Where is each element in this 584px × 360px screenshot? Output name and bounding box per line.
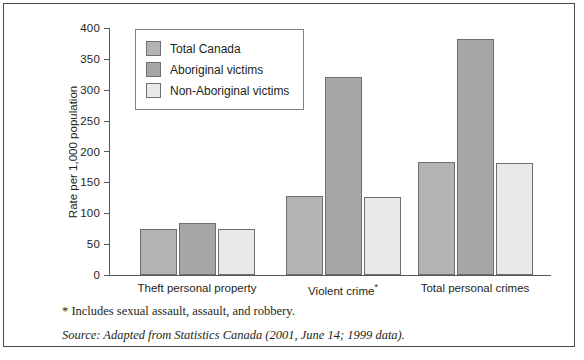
footnote-marker: *	[374, 282, 378, 292]
bar[interactable]	[325, 77, 362, 275]
chart-legend: Total CanadaAboriginal victimsNon-Aborig…	[135, 29, 304, 110]
y-tick-label: 300	[80, 84, 100, 96]
bar-group-bars	[409, 28, 541, 275]
bar[interactable]	[286, 196, 323, 275]
y-tick-100: 100	[80, 207, 109, 219]
x-axis-category-label: Violent crime*	[308, 282, 378, 297]
bar-group: Total personal crimes	[409, 28, 541, 275]
x-axis-line	[109, 275, 551, 276]
y-tick-150: 150	[80, 176, 109, 188]
y-tick-mark	[104, 121, 109, 122]
y-tick-mark	[104, 275, 109, 276]
bar[interactable]	[457, 39, 494, 275]
y-tick-label: 400	[80, 22, 100, 34]
y-tick-mark	[104, 151, 109, 152]
bar[interactable]	[140, 229, 177, 275]
bar[interactable]	[496, 163, 533, 275]
y-tick-400: 400	[80, 22, 109, 34]
legend-item: Non-Aboriginal victims	[146, 80, 289, 101]
y-tick-label: 0	[93, 269, 100, 281]
y-tick-mark	[104, 90, 109, 91]
y-tick-mark	[104, 213, 109, 214]
legend-swatch-icon	[146, 83, 161, 98]
y-tick-mark	[104, 28, 109, 29]
chart-notes: * Includes sexual assault, assault, and …	[62, 304, 405, 343]
y-tick-350: 350	[80, 53, 109, 65]
y-tick-50: 50	[87, 238, 109, 250]
legend-item: Total Canada	[146, 38, 289, 59]
source-text: Source: Adapted from Statistics Canada (…	[62, 328, 405, 343]
footnote-text: * Includes sexual assault, assault, and …	[62, 304, 405, 319]
bar[interactable]	[179, 223, 216, 275]
y-tick-label: 350	[80, 53, 100, 65]
bar[interactable]	[364, 197, 401, 275]
y-tick-label: 200	[80, 146, 100, 158]
y-tick-mark	[104, 244, 109, 245]
y-tick-mark	[104, 59, 109, 60]
bar[interactable]	[418, 162, 455, 275]
y-tick-label: 100	[80, 207, 100, 219]
y-tick-200: 200	[80, 146, 109, 158]
y-tick-0: 0	[93, 269, 109, 281]
y-axis-title: Rate per 1,000 population	[66, 28, 80, 275]
y-tick-250: 250	[80, 115, 109, 127]
legend-label: Total Canada	[170, 42, 241, 56]
figure-frame: Rate per 1,000 population 40035030025020…	[3, 3, 575, 347]
x-axis-category-label: Theft personal property	[138, 282, 257, 294]
y-tick-label: 50	[87, 238, 100, 250]
x-axis-category-label: Total personal crimes	[421, 282, 530, 294]
y-tick-300: 300	[80, 84, 109, 96]
legend-label: Aboriginal victims	[170, 63, 263, 77]
y-tick-label: 150	[80, 176, 100, 188]
legend-item: Aboriginal victims	[146, 59, 289, 80]
legend-label: Non-Aboriginal victims	[170, 84, 289, 98]
y-tick-mark	[104, 182, 109, 183]
legend-swatch-icon	[146, 62, 161, 77]
y-tick-label: 250	[80, 115, 100, 127]
y-axis-title-text: Rate per 1,000 population	[67, 85, 79, 217]
bar[interactable]	[218, 229, 255, 275]
legend-swatch-icon	[146, 41, 161, 56]
